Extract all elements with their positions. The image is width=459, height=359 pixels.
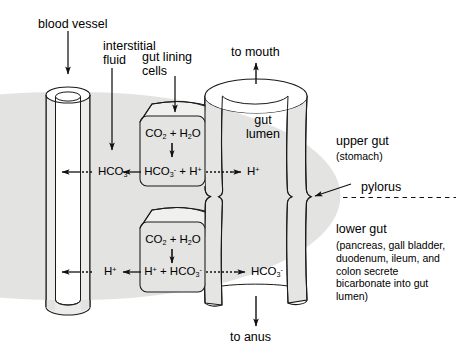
upper-interstitial-bicarbonate: HCO3-	[98, 165, 130, 179]
lower-cell-reactant: CO2 + H2O	[142, 233, 204, 247]
h2o-formula: H2O	[180, 127, 201, 139]
lower-gut-detail-label: (pancreas, gall bladder, duodenum, ileum…	[336, 239, 452, 303]
co2-formula: CO2	[145, 127, 166, 139]
lower-gut-label: lower gut	[336, 222, 387, 236]
upper-gut-label: upper gut	[336, 134, 389, 148]
to-mouth-label: to mouth	[231, 45, 280, 59]
h2o-formula: H2O	[180, 233, 201, 245]
proton-formula: H+	[189, 165, 202, 177]
upper-lumen-proton: H+	[247, 165, 260, 178]
plus-sign: +	[176, 165, 189, 177]
gut-lining-cells-label-line1: gut lining	[142, 50, 192, 64]
lower-interstitial-proton: H+	[104, 265, 117, 278]
upper-gut-detail-label: (stomach)	[336, 150, 383, 162]
pylorus-label: pylorus	[361, 180, 401, 194]
gut-lumen-label-line2: lumen	[235, 127, 291, 141]
blood-vessel-label: blood vessel	[38, 17, 108, 31]
proton-formula: H+	[144, 265, 157, 277]
upper-cell-reactant: CO2 + H2O	[142, 127, 204, 141]
upper-cell-products: HCO3- + H+	[140, 165, 206, 179]
gut-lining-cells-label: gut lining cells	[142, 50, 192, 79]
diagram-canvas: blood vessel interstitial fluid gut lini…	[0, 0, 459, 359]
hco3-formula: HCO3-	[170, 265, 202, 277]
to-anus-label: to anus	[230, 330, 271, 344]
co2-formula: CO2	[145, 233, 166, 245]
plus-sign: +	[157, 265, 170, 277]
gut-lining-cells-label-line2: cells	[142, 64, 192, 78]
plus-sign: +	[166, 127, 179, 139]
lower-gut-lining-cell	[140, 207, 205, 292]
gut-lumen-label: gut lumen	[235, 113, 291, 142]
lower-lumen-bicarbonate: HCO3-	[251, 265, 283, 279]
gut-lumen-label-line1: gut	[235, 113, 291, 127]
lower-cell-products: H+ + HCO3-	[140, 265, 206, 279]
plus-sign: +	[166, 233, 179, 245]
hco3-formula: HCO3-	[144, 165, 176, 177]
